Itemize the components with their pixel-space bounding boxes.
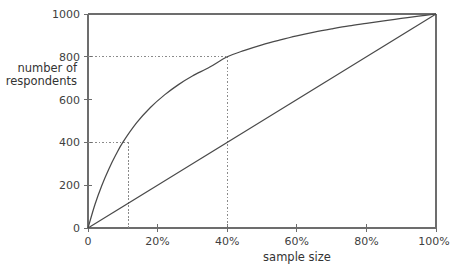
x-tick-label-40: 40% bbox=[215, 235, 239, 248]
y-tick-label-0: 0 bbox=[73, 222, 80, 235]
y-tick-label-1000: 1000 bbox=[52, 8, 80, 21]
y-tick-label-200: 200 bbox=[59, 179, 80, 192]
x-tick-label-80: 80% bbox=[354, 235, 378, 248]
x-tick-label-100: 100% bbox=[418, 235, 449, 248]
x-tick-label-60: 60% bbox=[285, 235, 309, 248]
y-tick-label-400: 400 bbox=[59, 136, 80, 149]
x-tick-label-20: 20% bbox=[145, 235, 169, 248]
linear-reference-line bbox=[88, 14, 436, 228]
figure-container: 1000 800 600 400 200 0 0 20% 40% 60% 80%… bbox=[0, 0, 458, 270]
chart-canvas: 1000 800 600 400 200 0 0 20% 40% 60% 80%… bbox=[0, 0, 458, 270]
y-tick-label-600: 600 bbox=[59, 94, 80, 107]
y-axis-title-line2: respondents bbox=[6, 74, 77, 88]
x-tick-label-0: 0 bbox=[85, 235, 92, 248]
figure-caption bbox=[6, 261, 336, 270]
y-axis-title-line1: number of bbox=[17, 61, 78, 75]
